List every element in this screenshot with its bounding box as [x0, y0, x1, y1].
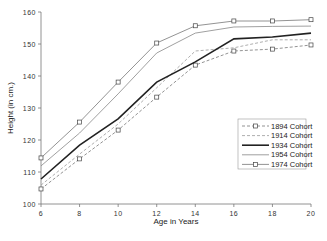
- square-marker-icon: [254, 124, 258, 128]
- square-marker-icon: [155, 95, 159, 99]
- square-marker-icon: [270, 47, 274, 51]
- y-ticks: 100110120130140150160: [23, 9, 41, 208]
- y-tick-label: 140: [23, 73, 36, 80]
- x-tick-label: 20: [307, 210, 316, 217]
- y-axis-title: Height (in cm.): [6, 82, 15, 134]
- x-tick-label: 14: [191, 210, 200, 217]
- height-by-age-chart: 100110120130140150160 68101214161820 Age…: [0, 0, 327, 241]
- square-marker-icon: [193, 24, 197, 28]
- legend: 1894 Cohort1914 Cohort1934 Cohort1954 Co…: [238, 119, 313, 169]
- x-ticks: 68101214161820: [39, 204, 316, 217]
- square-marker-icon: [254, 162, 258, 166]
- axes: [41, 12, 311, 204]
- square-marker-icon: [39, 156, 43, 160]
- square-marker-icon: [232, 49, 236, 53]
- x-axis-title: Age in Years: [154, 217, 199, 226]
- square-marker-icon: [270, 19, 274, 23]
- x-tick-label: 12: [152, 210, 161, 217]
- square-marker-icon: [309, 18, 313, 22]
- square-marker-icon: [309, 43, 313, 47]
- square-marker-icon: [232, 19, 236, 23]
- square-marker-icon: [116, 128, 120, 132]
- square-marker-icon: [193, 63, 197, 67]
- y-tick-label: 160: [23, 9, 36, 16]
- y-tick-label: 130: [23, 105, 36, 112]
- legend-label: 1954 Cohort: [271, 150, 313, 159]
- x-tick-label: 18: [268, 210, 277, 217]
- x-tick-label: 6: [39, 210, 43, 217]
- x-tick-label: 8: [77, 210, 81, 217]
- y-tick-label: 120: [23, 137, 36, 144]
- square-marker-icon: [155, 41, 159, 45]
- square-marker-icon: [39, 187, 43, 191]
- y-tick-label: 100: [23, 201, 36, 208]
- y-tick-label: 150: [23, 41, 36, 48]
- square-marker-icon: [116, 80, 120, 84]
- square-marker-icon: [78, 157, 82, 161]
- legend-label: 1914 Cohort: [271, 131, 313, 140]
- legend-label: 1974 Cohort: [271, 160, 313, 169]
- square-marker-icon: [78, 120, 82, 124]
- x-tick-label: 16: [229, 210, 238, 217]
- x-tick-label: 10: [114, 210, 123, 217]
- y-tick-label: 110: [23, 169, 36, 176]
- legend-label: 1934 Cohort: [271, 141, 313, 150]
- legend-label: 1894 Cohort: [271, 122, 313, 131]
